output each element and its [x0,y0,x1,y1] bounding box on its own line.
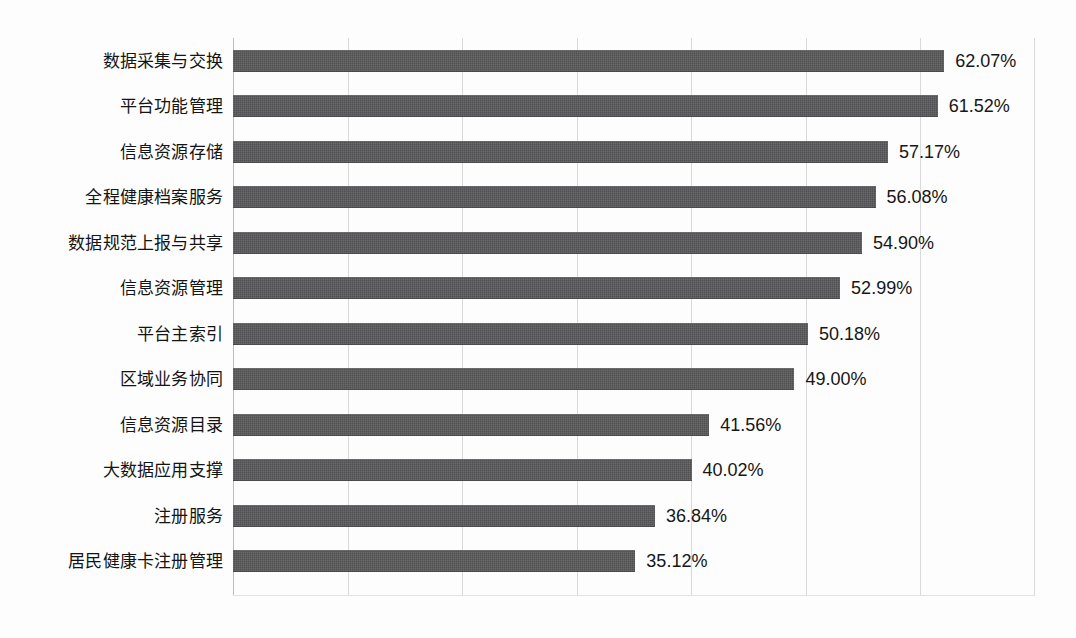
bar-value-label: 61.52% [949,95,1010,117]
bar-value-label: 57.17% [899,141,960,163]
category-label: 区域业务协同 [0,368,223,390]
bar-row: 数据规范上报与共享54.90% [0,220,1076,266]
category-label: 信息资源目录 [0,414,223,436]
bar-and-label: 40.02% [233,459,764,481]
bar-value-label: 54.90% [873,232,934,254]
bar-row: 区域业务协同49.00% [0,357,1076,403]
bar [233,277,840,299]
bar-value-label: 52.99% [851,277,912,299]
category-label: 大数据应用支撑 [0,459,223,481]
category-label: 全程健康档案服务 [0,186,223,208]
bar-row: 数据采集与交换62.07% [0,38,1076,84]
bar-and-label: 57.17% [233,141,960,163]
category-label: 信息资源管理 [0,277,223,299]
category-label: 平台主索引 [0,323,223,345]
category-label: 信息资源存储 [0,141,223,163]
category-label: 数据规范上报与共享 [0,232,223,254]
bar-value-label: 40.02% [703,459,764,481]
bar [233,459,692,481]
bar [233,50,944,72]
bar-row: 平台主索引50.18% [0,311,1076,357]
bar-row: 大数据应用支撑40.02% [0,448,1076,494]
bar-and-label: 61.52% [233,95,1010,117]
bar [233,368,794,390]
bar-and-label: 54.90% [233,232,934,254]
bar-chart: 数据采集与交换62.07%平台功能管理61.52%信息资源存储57.17%全程健… [0,0,1076,638]
bar-and-label: 52.99% [233,277,912,299]
bar-and-label: 56.08% [233,186,948,208]
bar-value-label: 50.18% [819,323,880,345]
category-label: 平台功能管理 [0,95,223,117]
bar-value-label: 41.56% [720,414,781,436]
bar [233,95,938,117]
bar [233,414,709,436]
bar-value-label: 56.08% [887,186,948,208]
bar-row: 信息资源管理52.99% [0,266,1076,312]
bar-and-label: 41.56% [233,414,781,436]
bar [233,232,862,254]
bar-value-label: 35.12% [646,550,707,572]
bar-row: 信息资源存储57.17% [0,129,1076,175]
bar-row: 居民健康卡注册管理35.12% [0,539,1076,585]
bar-value-label: 62.07% [955,50,1016,72]
bar-rows: 数据采集与交换62.07%平台功能管理61.52%信息资源存储57.17%全程健… [0,38,1076,595]
bar-and-label: 35.12% [233,550,707,572]
category-label: 注册服务 [0,505,223,527]
bar-and-label: 50.18% [233,323,880,345]
category-label: 居民健康卡注册管理 [0,550,223,572]
x-axis-line [233,595,1035,596]
bar-value-label: 49.00% [805,368,866,390]
bar [233,550,635,572]
bar-row: 平台功能管理61.52% [0,84,1076,130]
bar-row: 全程健康档案服务56.08% [0,175,1076,221]
category-label: 数据采集与交换 [0,50,223,72]
bar-and-label: 36.84% [233,505,727,527]
bar [233,323,808,345]
bar-and-label: 49.00% [233,368,866,390]
bar-and-label: 62.07% [233,50,1016,72]
bar [233,141,888,163]
bar [233,505,655,527]
bar-value-label: 36.84% [666,505,727,527]
bar [233,186,876,208]
bar-row: 信息资源目录41.56% [0,402,1076,448]
bar-row: 注册服务36.84% [0,493,1076,539]
